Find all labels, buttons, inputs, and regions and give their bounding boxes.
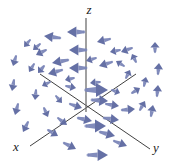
arrow-tail-cap [17, 103, 19, 105]
arrow-tail-cap [77, 117, 79, 119]
vector-field-figure: zxy [0, 0, 172, 166]
arrow-tail-cap [84, 88, 87, 91]
z-axis-label: z [85, 2, 91, 17]
arrow-tail-cap [131, 92, 133, 94]
arrow-tail-cap [131, 47, 133, 49]
arrow-tail-cap [59, 37, 62, 40]
arrow-tail-cap [109, 38, 111, 40]
arrow-tail-cap [157, 73, 159, 75]
arrow-tail-cap [91, 99, 94, 102]
arrow-tail-cap [99, 131, 102, 134]
arrow-tail-cap [95, 57, 97, 59]
arrow-tail-cap [13, 79, 15, 81]
arrow-tail-cap [55, 95, 57, 97]
arrow-tail-cap [15, 55, 17, 57]
arrow-tail-cap [45, 49, 47, 51]
arrow-tail-cap [119, 49, 121, 51]
arrow-tail-cap [113, 140, 115, 142]
arrow-tail-cap [29, 39, 31, 41]
arrow-tail-cap [43, 107, 45, 109]
arrow-tail-cap [85, 49, 88, 52]
arrow-tail-cap [150, 115, 152, 117]
arrow-tail-cap [43, 65, 45, 67]
arrow-tail-cap [35, 89, 37, 91]
arrow-tail-cap [57, 117, 59, 119]
arrow-tail-cap [85, 67, 88, 70]
arrow-tail-cap [84, 124, 87, 127]
arrow-tail-cap [123, 65, 125, 67]
arrow-tail-cap [47, 129, 49, 131]
x-axis-label: x [12, 139, 19, 154]
arrow-tail-cap [49, 81, 51, 83]
arrow-tail-cap [105, 103, 107, 105]
arrow-tail-cap [27, 121, 29, 123]
arrow-tail-cap [103, 117, 106, 120]
arrow-tail-cap [99, 81, 101, 83]
vector-field-plot: zxy [0, 0, 172, 166]
arrow-tail-cap [63, 142, 65, 144]
y-axis-label: y [151, 140, 159, 155]
arrow-tail-cap [139, 109, 141, 111]
arrow-tail-cap [83, 31, 86, 34]
arrow-tail-cap [156, 95, 158, 97]
arrow-tail-cap [125, 77, 127, 79]
arrow-tail-cap [135, 61, 137, 63]
arrow-tail-cap [33, 63, 35, 65]
arrow-tail-cap [69, 103, 71, 105]
arrow-tail-cap [111, 61, 113, 63]
arrow-tail-cap [61, 69, 63, 71]
arrow-tail-cap [73, 77, 75, 79]
arrow-tail-cap [143, 85, 145, 87]
arrow-tail-cap [65, 85, 67, 87]
arrow-tail-cap [86, 153, 89, 156]
arrow-tail-cap [121, 109, 123, 111]
arrow-tail-cap [39, 43, 41, 45]
arrow-tail-cap [67, 59, 70, 62]
arrow-tail-cap [154, 51, 156, 53]
arrow-tail-cap [111, 89, 113, 91]
